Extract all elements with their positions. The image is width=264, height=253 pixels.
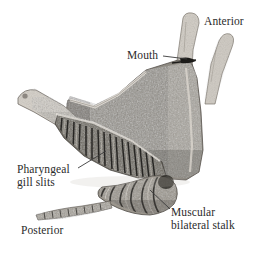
label-pharyngeal-line1: Pharyngeal bbox=[17, 163, 70, 175]
posterior-tail bbox=[30, 198, 120, 224]
anterior-prong-right bbox=[198, 30, 242, 110]
label-mouth: Mouth bbox=[127, 49, 158, 62]
label-anterior: Anterior bbox=[204, 15, 244, 28]
label-pharyngeal-gill-slits: Pharyngeal gill slits bbox=[17, 163, 70, 189]
specimen-body bbox=[10, 10, 242, 224]
label-muscular-line2: bilateral stalk bbox=[171, 219, 235, 232]
label-pharyngeal-line2: gill slits bbox=[17, 176, 70, 189]
label-muscular-bilateral-stalk: Muscular bilateral stalk bbox=[171, 206, 235, 232]
label-posterior: Posterior bbox=[21, 224, 63, 237]
specimen-figure: Anterior Mouth Pharyngeal gill slits Pos… bbox=[0, 0, 264, 253]
label-muscular-line1: Muscular bbox=[171, 206, 215, 218]
